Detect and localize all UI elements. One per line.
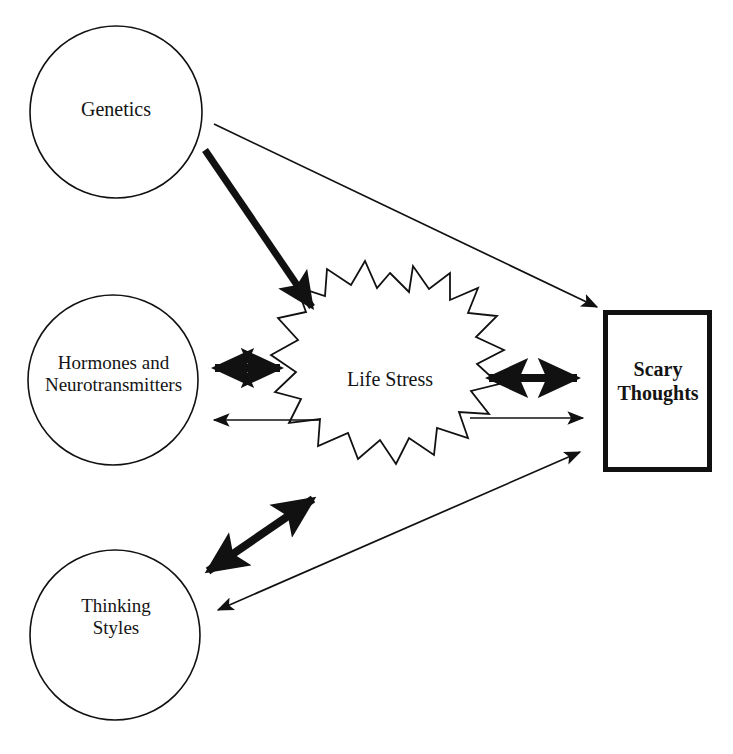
diagram-canvas: Genetics Hormones and Neurotransmitters … — [0, 0, 733, 754]
node-scary-thoughts[interactable] — [606, 313, 710, 470]
edge-genetics-to-scary-thoughts[interactable] — [214, 124, 597, 307]
node-life-stress-starburst[interactable] — [271, 261, 504, 464]
node-thinking-styles[interactable] — [30, 550, 200, 720]
edge-life-stress-thinking-styles[interactable] — [208, 499, 313, 571]
node-hormones[interactable] — [28, 295, 198, 465]
edge-genetics-to-life-stress[interactable] — [205, 150, 312, 307]
node-genetics[interactable] — [30, 26, 202, 198]
diagram-svg — [0, 0, 733, 754]
